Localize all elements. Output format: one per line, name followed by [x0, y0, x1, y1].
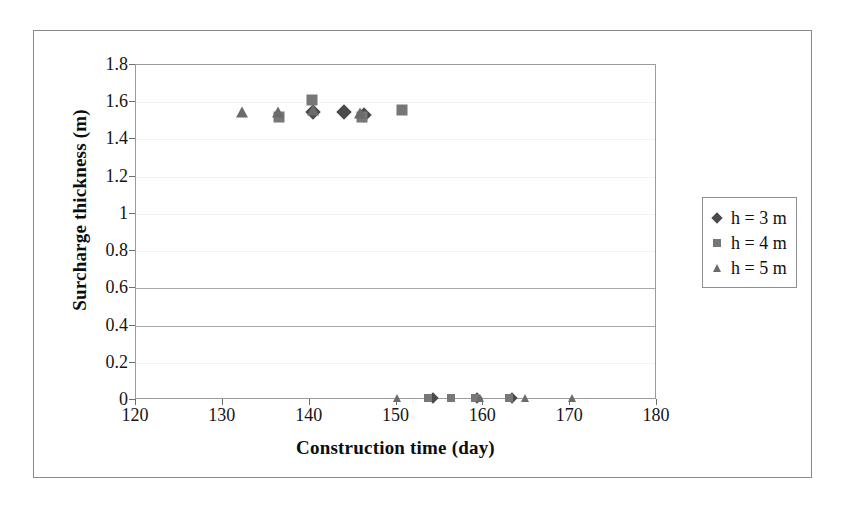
y-tick-label: 0.2	[68, 353, 128, 371]
y-tick-mark	[129, 287, 135, 288]
legend-label: h = 4 m	[731, 233, 787, 253]
data-point	[236, 107, 248, 118]
y-tick-mark	[129, 176, 135, 177]
data-point	[521, 394, 529, 402]
y-tick-mark	[129, 101, 135, 102]
x-tick-label: 160	[447, 405, 517, 425]
y-tick-mark	[129, 64, 135, 65]
x-tick-mark	[482, 399, 483, 405]
gridline	[136, 363, 655, 364]
x-tick-label: 140	[274, 405, 344, 425]
y-tick-mark	[129, 213, 135, 214]
x-tick-mark	[135, 399, 136, 405]
gridline	[136, 326, 655, 327]
gridline	[136, 214, 655, 215]
y-tick-label: 0.8	[68, 241, 128, 259]
legend-swatch-square-icon	[710, 236, 724, 250]
x-tick-mark	[222, 399, 223, 405]
y-tick-label: 1.2	[68, 167, 128, 185]
chart-legend: h = 3 mh = 4 mh = 5 m	[702, 197, 797, 288]
figure-frame: Surcharge thickness (m) 00.20.40.60.811.…	[33, 30, 812, 478]
y-tick-mark	[129, 250, 135, 251]
x-tick-mark	[569, 399, 570, 405]
x-tick-label: 170	[534, 405, 604, 425]
legend-swatch-diamond-icon	[710, 211, 724, 225]
legend-label: h = 3 m	[731, 208, 787, 228]
gridline	[136, 102, 655, 103]
y-tick-label: 0.6	[68, 278, 128, 296]
x-axis-tick-labels: 120130140150160170180	[135, 405, 656, 431]
legend-label: h = 5 m	[731, 258, 787, 278]
data-point	[396, 104, 407, 115]
gridline	[136, 177, 655, 178]
data-point	[354, 108, 366, 119]
x-tick-mark	[396, 399, 397, 405]
gridline	[136, 139, 655, 140]
y-tick-mark	[129, 362, 135, 363]
y-tick-label: 1.6	[68, 92, 128, 110]
y-tick-label: 1.8	[68, 55, 128, 73]
data-point	[424, 394, 432, 402]
x-tick-label: 130	[187, 405, 257, 425]
y-tick-mark	[129, 325, 135, 326]
gridline	[136, 251, 655, 252]
data-point	[393, 394, 401, 402]
x-tick-mark	[309, 399, 310, 405]
x-axis-title: Construction time (day)	[135, 437, 656, 459]
x-tick-mark	[656, 399, 657, 405]
data-point	[447, 394, 455, 402]
y-tick-label: 0.4	[68, 316, 128, 334]
data-point	[307, 104, 319, 115]
x-tick-label: 120	[100, 405, 170, 425]
x-tick-label: 150	[361, 405, 431, 425]
y-tick-label: 1.4	[68, 129, 128, 147]
data-point	[272, 107, 284, 118]
data-point	[337, 104, 353, 120]
plot-area	[135, 64, 656, 399]
legend-swatch-triangle-icon	[710, 261, 724, 275]
legend-item: h = 5 m	[710, 255, 787, 280]
legend-item: h = 4 m	[710, 230, 787, 255]
y-tick-label: 1	[68, 204, 128, 222]
gridline	[136, 288, 655, 289]
data-point	[505, 394, 513, 402]
y-tick-mark	[129, 138, 135, 139]
legend-item: h = 3 m	[710, 205, 787, 230]
y-axis-tick-labels: 00.20.40.60.811.21.41.61.8	[60, 64, 128, 399]
scatter-chart: Surcharge thickness (m) 00.20.40.60.811.…	[34, 31, 811, 477]
x-tick-label: 180	[621, 405, 691, 425]
